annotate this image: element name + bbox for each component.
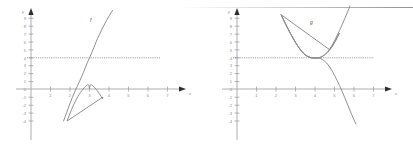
svg-text:6: 6 (147, 93, 150, 98)
y-tick-labels-f: 9 8 7 6 5 4 3 2 1 0 -1 -2 -3 -4 (22, 16, 26, 124)
plot-panels-container: 9 8 7 6 5 4 3 2 1 0 -1 -2 -3 -4 (0, 0, 413, 148)
plot-svg-f: 9 8 7 6 5 4 3 2 1 0 -1 -2 -3 -4 (0, 0, 206, 148)
svg-text:1: 1 (230, 79, 233, 84)
svg-text:4: 4 (230, 56, 233, 61)
svg-text:3: 3 (230, 63, 233, 68)
axis-label-x-f: x (188, 91, 192, 96)
x-axis-g (222, 86, 392, 91)
function-label-g: g (310, 19, 313, 25)
svg-text:9: 9 (24, 16, 27, 21)
svg-text:2: 2 (24, 71, 27, 76)
svg-text:1: 1 (255, 93, 258, 98)
svg-text:-3: -3 (228, 111, 232, 116)
svg-text:8: 8 (230, 24, 233, 29)
svg-text:4: 4 (24, 56, 27, 61)
svg-text:.: . (0, 0, 4, 3)
svg-text:5: 5 (333, 93, 336, 98)
svg-text:7: 7 (24, 32, 27, 37)
svg-text:-4: -4 (22, 119, 26, 124)
svg-text:4: 4 (108, 93, 111, 98)
svg-text:7: 7 (230, 32, 233, 37)
svg-text:7: 7 (372, 93, 375, 98)
svg-text:9: 9 (230, 16, 233, 21)
x-axis-f (16, 86, 186, 91)
svg-text:3: 3 (294, 93, 297, 98)
svg-text:1: 1 (49, 93, 52, 98)
y-axis-f (28, 8, 33, 140)
svg-text:6: 6 (24, 40, 27, 45)
svg-text:-2: -2 (228, 103, 232, 108)
axis-label-y-g: y (227, 9, 231, 14)
curve-f (67, 85, 103, 121)
svg-text:0: 0 (230, 87, 233, 92)
plot-panel-f: 9 8 7 6 5 4 3 2 1 0 -1 -2 -3 -4 (0, 0, 206, 148)
x-tick-labels-g: 1 2 3 4 5 6 7 (255, 93, 375, 98)
axis-label-y-f: y (21, 9, 25, 14)
y-axis-g (234, 8, 239, 140)
y-tick-labels-g: 9 8 7 6 5 4 3 2 1 0 -1 -2 -3 -4 (228, 16, 232, 124)
x-tick-labels-f: 1 2 3 4 5 6 7 (49, 93, 169, 98)
svg-text:7: 7 (166, 93, 169, 98)
curve-g-lower (319, 58, 357, 124)
axis-label-x-g: x (394, 91, 398, 96)
svg-text:1: 1 (24, 79, 27, 84)
svg-text:3: 3 (88, 93, 91, 98)
svg-text:5: 5 (127, 93, 130, 98)
svg-text:3: 3 (24, 63, 27, 68)
svg-text:5: 5 (24, 48, 27, 53)
curve-g-stroke (281, 6, 350, 58)
svg-text:6: 6 (353, 93, 356, 98)
svg-text:2: 2 (230, 71, 233, 76)
svg-text:-1: -1 (228, 95, 232, 100)
svg-text:-2: -2 (22, 103, 26, 108)
function-label-f: f (90, 17, 92, 23)
svg-text:0: 0 (24, 87, 27, 92)
svg-text:2: 2 (69, 93, 72, 98)
svg-text:4: 4 (314, 93, 317, 98)
curve-f-main (64, 11, 113, 122)
svg-text:5: 5 (230, 48, 233, 53)
plot-panel-g: 9 8 7 6 5 4 3 2 1 0 -1 -2 -3 -4 (206, 0, 412, 148)
svg-text:-1: -1 (22, 95, 26, 100)
plot-svg-g: 9 8 7 6 5 4 3 2 1 0 -1 -2 -3 -4 (206, 0, 412, 148)
svg-text:2: 2 (275, 93, 278, 98)
svg-text:-4: -4 (228, 119, 232, 124)
svg-text:8: 8 (24, 24, 27, 29)
svg-text:6: 6 (230, 40, 233, 45)
svg-text:-3: -3 (22, 111, 26, 116)
